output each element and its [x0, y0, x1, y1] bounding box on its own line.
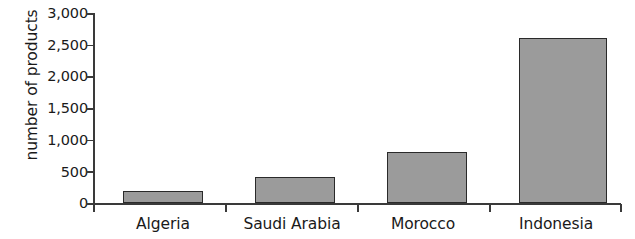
y-tick-label-1000: 1,000 — [8, 133, 88, 148]
y-tick-label-1500: 1,500 — [8, 101, 88, 116]
y-axis-title: number of products — [21, 0, 43, 180]
x-tick-mark-4 — [620, 204, 622, 212]
bar-chart: number of products 3,000 2,500 2,000 1,5… — [0, 0, 635, 239]
bar-saudi-arabia — [255, 177, 335, 203]
x-category-label-algeria: Algeria — [103, 214, 223, 234]
x-category-label-saudi-arabia: Saudi Arabia — [226, 214, 358, 234]
y-axis-line — [93, 13, 95, 204]
bar-indonesia — [519, 38, 607, 203]
x-tick-mark-0 — [93, 204, 95, 212]
y-tick-label-3000: 3,000 — [8, 6, 88, 21]
x-tick-mark-3 — [489, 204, 491, 212]
y-tick-label-2500: 2,500 — [8, 38, 88, 53]
bar-morocco — [387, 152, 467, 203]
x-tick-mark-2 — [357, 204, 359, 212]
bar-algeria — [123, 191, 203, 203]
x-category-label-indonesia: Indonesia — [491, 214, 621, 234]
y-tick-label-2000: 2,000 — [8, 69, 88, 84]
x-category-label-morocco: Morocco — [358, 214, 488, 234]
y-tick-label-500: 500 — [8, 165, 88, 180]
x-tick-mark-1 — [225, 204, 227, 212]
y-tick-label-0: 0 — [8, 196, 88, 211]
